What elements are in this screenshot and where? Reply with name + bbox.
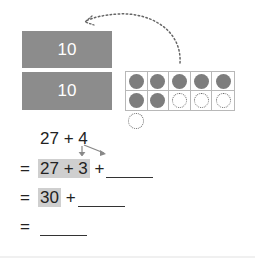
addend-a: 27 [40, 129, 59, 148]
problem-line-2: 27 + 3 + [38, 158, 104, 180]
empty-counter-icon [172, 93, 187, 108]
filled-counter-icon [172, 74, 187, 89]
empty-counter-icon [216, 93, 231, 108]
problem-line-3: 30 + [38, 187, 76, 209]
empty-counter-icon [194, 93, 209, 108]
tens-block-label: 10 [58, 81, 77, 101]
equals-sign-4: = [20, 216, 30, 238]
answer-blank-3[interactable] [40, 235, 87, 236]
plus-sign: + [64, 129, 74, 148]
addend-b: 4 [78, 129, 87, 148]
ten-frame-cell [126, 91, 148, 110]
filled-counter-icon [129, 93, 144, 108]
filled-counter-icon [150, 93, 165, 108]
equals-sign-3: = [20, 187, 30, 209]
equals-sign-2: = [20, 158, 30, 180]
tens-block-2: 10 [22, 72, 112, 110]
ten-frame-cell [169, 91, 191, 110]
ten-frame [125, 71, 235, 111]
ten-frame-cell [148, 91, 170, 110]
ten-frame-cell [148, 72, 170, 91]
ten-frame-cell [169, 72, 191, 91]
highlight-make-ten: 27 + 3 [38, 159, 90, 178]
plus-sign: + [66, 188, 76, 207]
ten-frame-cell [191, 91, 213, 110]
ten-frame-cell [191, 72, 213, 91]
filled-counter-icon [129, 74, 144, 89]
ten-frame-cell [212, 91, 234, 110]
filled-counter-icon [194, 74, 209, 89]
answer-blank-2[interactable] [78, 206, 125, 207]
tens-block-label: 10 [58, 40, 77, 60]
plus-sign: + [94, 159, 104, 178]
extra-empty-counter-icon [128, 113, 144, 129]
answer-blank-1[interactable] [106, 177, 153, 178]
filled-counter-icon [216, 74, 231, 89]
filled-counter-icon [150, 74, 165, 89]
tens-block-1: 10 [22, 31, 112, 68]
ten-frame-cell [212, 72, 234, 91]
problem-line-1: 27 + 4 [40, 128, 88, 150]
ten-frame-cell [126, 72, 148, 91]
highlight-thirty: 30 [38, 188, 61, 207]
